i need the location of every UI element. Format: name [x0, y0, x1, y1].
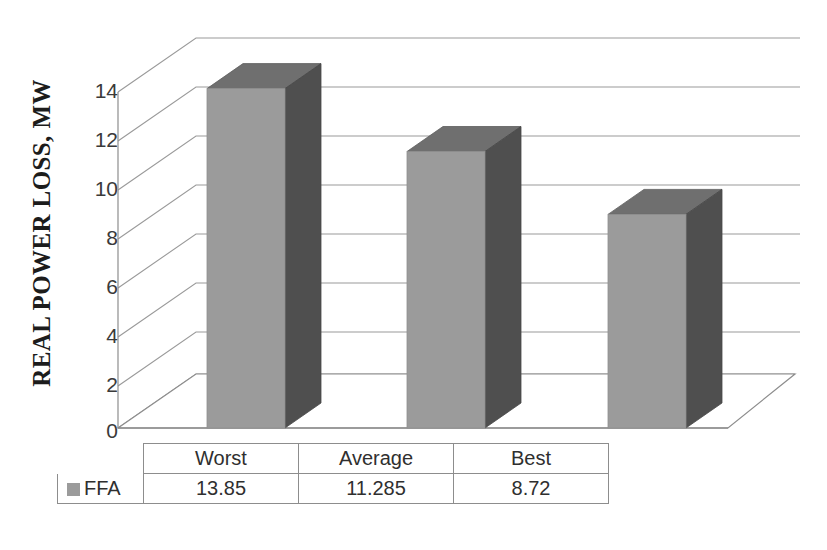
- bar-average: [407, 127, 521, 429]
- bar-worst-side: [285, 64, 321, 428]
- bar-worst: [207, 64, 321, 428]
- table-header-best: Best: [454, 444, 609, 474]
- legend-label: FFA: [84, 477, 121, 500]
- legend-swatch-icon: [67, 483, 80, 496]
- bar-best-side: [686, 189, 722, 428]
- chart-container: REAL POWER LOSS, MW 14 12 10 8 6 4 2 0: [0, 0, 827, 550]
- bar-average-side: [485, 127, 521, 429]
- data-table: Worst Average Best FFA 13.85 11.285 8.72: [57, 443, 609, 504]
- bar-worst-front: [207, 89, 285, 428]
- legend-entry-ffa: FFA: [58, 474, 144, 504]
- table-header-worst: Worst: [144, 444, 299, 474]
- table-value-best: 8.72: [454, 474, 609, 504]
- table-corner-cell: [58, 444, 144, 474]
- table-row-ffa: FFA 13.85 11.285 8.72: [58, 474, 609, 504]
- bar-best-front: [608, 214, 686, 428]
- table-value-average: 11.285: [299, 474, 454, 504]
- table-value-worst: 13.85: [144, 474, 299, 504]
- table-header-average: Average: [299, 444, 454, 474]
- bar-average-front: [407, 152, 485, 429]
- table-row-categories: Worst Average Best: [58, 444, 609, 474]
- bar-best: [608, 189, 722, 428]
